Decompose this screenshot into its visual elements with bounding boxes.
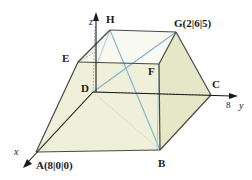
vertex-label-A: A(8|0|0) — [36, 160, 73, 171]
vertex-label-C: C — [212, 79, 220, 90]
face-front-left — [36, 62, 160, 152]
geometry-figure: z y x 8 A(8|0|0) B C D E F G(2|6|5) H — [0, 0, 252, 180]
vertex-label-E: E — [62, 53, 69, 64]
vertex-label-F: F — [148, 66, 155, 77]
axis-label-y: y — [239, 101, 243, 111]
vertex-label-G: G(2|6|5) — [174, 18, 211, 29]
axis-x-arrowhead — [23, 159, 32, 168]
vertex-label-B: B — [158, 158, 165, 169]
axis-z-arrowhead — [93, 12, 99, 21]
axis-label-z: z — [89, 17, 93, 27]
axis-y-arrowhead — [229, 93, 238, 99]
vertex-label-H: H — [106, 14, 115, 25]
figure-canvas — [0, 0, 252, 180]
axis-label-x: x — [14, 147, 18, 157]
tick-label-y-8: 8 — [226, 101, 231, 110]
vertex-label-D: D — [81, 83, 89, 94]
